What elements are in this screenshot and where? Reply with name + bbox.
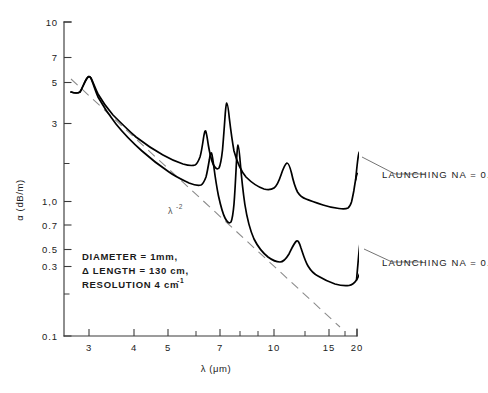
curve-label-na-0-7: LAUNCHING NA = 0.7 xyxy=(382,169,488,180)
x-tick-label-5: 5 xyxy=(165,342,171,353)
y-tick-label-10: 10 xyxy=(46,17,58,28)
x-tick-label-15: 15 xyxy=(323,342,335,353)
y-axis-title: α (dB/m) xyxy=(14,179,25,220)
y-tick-label-0-5: 0.5 xyxy=(42,244,58,255)
x-tick-label-7: 7 xyxy=(217,342,223,353)
x-axis-ticks xyxy=(89,329,357,336)
lambda-squared-label-exponent: -2 xyxy=(176,203,183,210)
condition-resolution-exponent: -1 xyxy=(177,277,184,284)
measurement-conditions: DIAMETER = 1mm, Δ LENGTH = 130 cm, RESOL… xyxy=(82,251,189,290)
y-tick-label-0-1: 0.1 xyxy=(42,331,58,342)
y-tick-label-5: 5 xyxy=(52,77,58,88)
y-tick-label-1: 1,0 xyxy=(42,196,58,207)
curve-launching-na-0-3-terminal-spike xyxy=(357,241,378,286)
y-tick-label-0-7: 0.7 xyxy=(42,220,58,231)
lambda-squared-label: λ -2 xyxy=(168,203,183,216)
x-tick-label-4: 4 xyxy=(131,342,137,353)
condition-length: Δ LENGTH = 130 cm, xyxy=(82,265,189,276)
figure-canvas: 10 7 5 3 1,0 0.7 0.5 0.3 0.1 α (dB/m) xyxy=(0,0,488,393)
x-axis-tick-labels: 3 4 5 7 10 15 20 xyxy=(86,342,363,353)
x-tick-label-3: 3 xyxy=(86,342,92,353)
y-tick-label-7: 7 xyxy=(52,52,58,63)
condition-resolution: RESOLUTION 4 cm xyxy=(82,279,179,290)
lambda-squared-label-base: λ xyxy=(168,206,173,216)
x-axis-title: λ (μm) xyxy=(201,363,232,374)
x-tick-label-20: 20 xyxy=(351,342,363,353)
curve-launching-na-0-7 xyxy=(71,77,357,209)
y-axis-ticks xyxy=(64,22,72,336)
curve-label-na-0-3: LAUNCHING NA = 0.3 xyxy=(382,257,488,268)
y-tick-label-0-3: 0.3 xyxy=(42,261,58,272)
x-tick-label-10: 10 xyxy=(268,342,280,353)
y-tick-label-3: 3 xyxy=(52,118,58,129)
condition-diameter: DIAMETER = 1mm, xyxy=(82,251,178,262)
spectrum-chart: 10 7 5 3 1,0 0.7 0.5 0.3 0.1 α (dB/m) xyxy=(0,0,488,393)
y-axis-tick-labels: 10 7 5 3 1,0 0.7 0.5 0.3 0.1 xyxy=(42,17,58,342)
